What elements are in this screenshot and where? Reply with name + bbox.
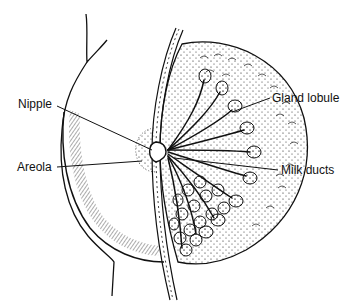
- breast-cross-section: [160, 42, 307, 264]
- gland-lobule-label: Gland lobule: [272, 91, 339, 105]
- torso-outline: [61, 14, 114, 296]
- nipple-label: Nipple: [18, 97, 52, 111]
- areola-leader-line: [57, 161, 142, 167]
- areola-label: Areola: [17, 160, 52, 174]
- milk-ducts-label: Milk ducts: [281, 163, 334, 177]
- breast-anatomy-diagram: [0, 0, 351, 308]
